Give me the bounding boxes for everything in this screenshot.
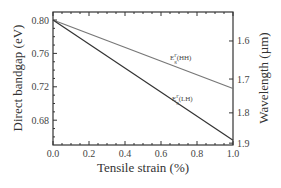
series-line: [53, 20, 233, 88]
x-tick-label: 0.0: [47, 148, 60, 159]
y2-tick-label: 1.7: [237, 74, 250, 85]
x-axis-title: Tensile strain (%): [97, 160, 189, 175]
x-tick-label: 0.8: [191, 148, 204, 159]
series-lines: [53, 20, 233, 140]
x-tick-label: 0.6: [155, 148, 168, 159]
x-tick-label: 0.2: [83, 148, 96, 159]
x-tick-label: 1.0: [227, 148, 240, 159]
y2-tick-label: 1.6: [237, 35, 250, 46]
y-axis-title: Direct bandgap (eV): [10, 25, 25, 132]
series-line: [53, 20, 233, 140]
y-tick-label: 0.76: [32, 48, 50, 59]
series-label: EΓg(HH): [170, 53, 192, 64]
y2-tick-label: 1.8: [237, 107, 250, 118]
y-tick-label: 0.72: [32, 81, 50, 92]
y-tick-label: 0.80: [32, 15, 50, 26]
x-axis-ticks: 0.00.20.40.60.81.0: [47, 12, 240, 159]
series-label: EΓg(LH): [172, 94, 193, 105]
y2-axis-title: Wavelength (µm): [256, 32, 271, 123]
y-tick-label: 0.68: [32, 115, 50, 126]
x-tick-label: 0.4: [119, 148, 132, 159]
y2-tick-label: 1.9: [237, 138, 250, 149]
y2-axis-ticks: 1.61.71.81.9: [229, 35, 250, 148]
series-labels: EΓg(HH)EΓg(LH): [170, 53, 193, 105]
bandgap-chart: 0.00.20.40.60.81.0 0.800.760.720.68 1.61…: [0, 0, 281, 188]
